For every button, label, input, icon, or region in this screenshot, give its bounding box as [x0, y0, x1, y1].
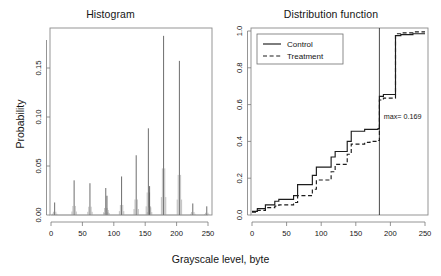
- distribution-ytick-2: 0.4: [235, 136, 244, 147]
- distribution-legend: Control Treatment: [257, 34, 343, 64]
- shared-x-axis-label: Grayscale level, byte: [0, 253, 441, 265]
- distribution-ytick-3: 0.6: [235, 99, 244, 110]
- max-difference-annotation: max= 0.169: [384, 112, 422, 121]
- histogram-xtick-1: 50: [78, 229, 86, 238]
- distribution-xtick-0: 0: [250, 229, 254, 238]
- distribution-panel: Distribution function 0.0 0.2 0.4 0.6 0.…: [221, 0, 441, 276]
- distribution-ytick-4: 0.8: [235, 63, 244, 74]
- histogram-panel: Histogram Probability 0.00 0.05 0.10 0.1…: [0, 0, 221, 276]
- figure-canvas: Histogram Probability 0.00 0.05 0.10 0.1…: [0, 0, 441, 276]
- histogram-xtick-4: 200: [170, 229, 183, 238]
- distribution-ytick-0: 0.0: [235, 210, 244, 221]
- histogram-ytick-1: 0.05: [34, 159, 43, 174]
- histogram-ytick-3: 0.15: [34, 61, 43, 76]
- histogram-ytick-0: 0.00: [34, 208, 43, 223]
- distribution-xtick-2: 100: [315, 229, 328, 238]
- legend-label-control: Control: [287, 40, 313, 49]
- histogram-xtick-3: 150: [139, 229, 152, 238]
- histogram-xtick-0: 0: [49, 229, 53, 238]
- distribution-xtick-1: 50: [282, 229, 290, 238]
- histogram-ytick-2: 0.10: [34, 110, 43, 125]
- histogram-xtick-2: 100: [107, 229, 120, 238]
- histogram-y-axis: 0.00 0.05 0.10 0.15: [34, 40, 50, 222]
- distribution-ytick-1: 0.2: [235, 173, 244, 184]
- distribution-xtick-3: 150: [349, 229, 362, 238]
- legend-label-treatment: Treatment: [287, 52, 324, 61]
- histogram-spikes: [52, 36, 209, 215]
- distribution-x-axis: 0 50 100 150 200 250: [250, 222, 431, 238]
- distribution-xtick-5: 250: [419, 229, 432, 238]
- distribution-xtick-4: 200: [384, 229, 397, 238]
- distribution-ytick-5: 1.0: [235, 26, 244, 37]
- histogram-plot: 0.00 0.05 0.10 0.15 0 50 100 150 200 250: [0, 0, 221, 276]
- histogram-xtick-5: 250: [202, 229, 215, 238]
- distribution-y-axis: 0.0 0.2 0.4 0.6 0.8 1.0: [235, 26, 251, 221]
- histogram-x-axis: 0 50 100 150 200 250: [49, 222, 214, 238]
- distribution-plot: 0.0 0.2 0.4 0.6 0.8 1.0 0 50 100 150: [221, 0, 441, 276]
